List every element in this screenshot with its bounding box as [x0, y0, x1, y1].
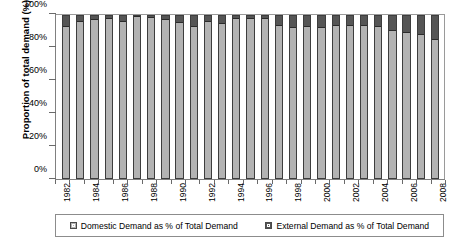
- bar-segment-domestic: [389, 31, 395, 178]
- plot-area: 0%20%40%60%80%100%: [55, 14, 445, 180]
- table-row: [147, 15, 155, 179]
- x-axis-tick-label: 1994: [236, 183, 246, 202]
- bar-column: [414, 15, 428, 179]
- bar-column: [229, 15, 243, 179]
- y-axis-tick: [49, 13, 56, 14]
- bar-segment-external: [403, 16, 409, 33]
- bar-segment-domestic: [162, 20, 168, 178]
- bar-segment-external: [219, 16, 225, 24]
- table-row: [360, 15, 368, 179]
- bar-segment-external: [432, 16, 438, 39]
- y-axis-tick: [49, 79, 56, 80]
- x-axis-tick-label: 2008: [438, 183, 448, 202]
- bar-column: [300, 15, 314, 179]
- bar-segment-domestic: [148, 18, 154, 178]
- y-axis-tick-label: 20%: [29, 131, 47, 141]
- table-row: [105, 15, 113, 179]
- table-row: [246, 15, 254, 179]
- bar-segment-external: [318, 16, 324, 28]
- x-axis-tick-label: 1986: [120, 183, 130, 202]
- bar-segment-domestic: [205, 22, 211, 178]
- bar-segment-domestic: [276, 26, 282, 178]
- bar-segment-domestic: [106, 19, 112, 178]
- x-axis-tick-label: 1996: [264, 183, 274, 202]
- bar-segment-external: [361, 16, 367, 26]
- bar-column: [343, 15, 357, 179]
- bar-segment-external: [418, 16, 424, 35]
- bar-segment-domestic: [191, 27, 197, 178]
- y-axis-tick-label: 60%: [29, 65, 47, 75]
- bar-segment-domestic: [333, 26, 339, 178]
- bar-column: [243, 15, 257, 179]
- y-axis-tick: [49, 46, 56, 47]
- table-row: [62, 15, 70, 179]
- bar-segment-external: [276, 16, 282, 26]
- stacked-bar-chart: Proportion of total demand (%) 0%20%40%6…: [0, 0, 453, 249]
- bar-column: [187, 15, 201, 179]
- x-axis-tick-label: 2004: [380, 183, 390, 202]
- bar-column: [116, 15, 130, 179]
- table-row: [90, 15, 98, 179]
- bar-segment-external: [347, 16, 353, 26]
- bar-segment-external: [389, 16, 395, 31]
- bar-column: [400, 15, 414, 179]
- bar-column: [144, 15, 158, 179]
- legend-item-label: External Demand as % of Total Demand: [276, 221, 429, 231]
- x-axis-tick-label: 1988: [149, 183, 159, 202]
- bar-column: [130, 15, 144, 179]
- bar-segment-external: [290, 16, 296, 28]
- legend-item[interactable]: External Demand as % of Total Demand: [265, 221, 429, 231]
- bar-segment-domestic: [432, 40, 438, 179]
- x-axis-tick-label: 2002: [351, 183, 361, 202]
- bar-segment-external: [304, 16, 310, 27]
- bar-column: [59, 15, 73, 179]
- bar-column: [201, 15, 215, 179]
- bar-column: [102, 15, 116, 179]
- x-axis-labels: 1982198419861988199019921994199619982000…: [55, 183, 445, 211]
- table-row: [289, 15, 297, 179]
- x-axis-tick-label: 1990: [178, 183, 188, 202]
- bar-segment-domestic: [290, 28, 296, 178]
- y-axis-tick-label: 100%: [24, 0, 47, 9]
- table-row: [431, 15, 439, 179]
- table-row: [346, 15, 354, 179]
- bar-segment-domestic: [403, 33, 409, 178]
- bar-segment-domestic: [219, 24, 225, 178]
- table-row: [332, 15, 340, 179]
- bar-segment-domestic: [176, 23, 182, 178]
- x-axis-tick-label: 2006: [409, 183, 419, 202]
- x-axis-tick-label: 1992: [207, 183, 217, 202]
- y-axis-tick: [49, 178, 56, 179]
- bar-segment-external: [333, 16, 339, 26]
- bar-column: [286, 15, 300, 179]
- bar-segment-domestic: [304, 27, 310, 178]
- bar-segment-external: [191, 16, 197, 27]
- plot-frame-right: [444, 14, 445, 179]
- x-axis-tick-label: 2000: [322, 183, 332, 202]
- x-axis-tick-label: 1984: [91, 183, 101, 202]
- bar-column: [272, 15, 286, 179]
- table-row: [275, 15, 283, 179]
- bar-segment-external: [63, 16, 69, 27]
- bar-column: [314, 15, 328, 179]
- table-row: [317, 15, 325, 179]
- bar-segment-domestic: [361, 26, 367, 178]
- legend-swatch-domestic: [70, 222, 77, 229]
- bar-column: [258, 15, 272, 179]
- table-row: [261, 15, 269, 179]
- table-row: [204, 15, 212, 179]
- bar-column: [158, 15, 172, 179]
- table-row: [303, 15, 311, 179]
- bar-column: [73, 15, 87, 179]
- y-axis-tick: [49, 112, 56, 113]
- legend-item[interactable]: Domestic Demand as % of Total Demand: [70, 221, 238, 231]
- bar-segment-domestic: [134, 17, 140, 178]
- x-axis-tick-label: 1982: [62, 183, 72, 202]
- table-row: [175, 15, 183, 179]
- y-axis-tick-label: 80%: [29, 32, 47, 42]
- table-row: [119, 15, 127, 179]
- bar-column: [385, 15, 399, 179]
- table-row: [388, 15, 396, 179]
- bar-segment-domestic: [63, 27, 69, 178]
- table-row: [374, 15, 382, 179]
